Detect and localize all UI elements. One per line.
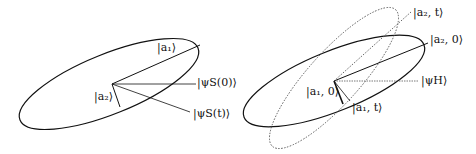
label-a1-t: |a₁, t⟩ bbox=[352, 102, 382, 114]
label-psi-s-0: |ψS(0)⟩ bbox=[197, 77, 237, 89]
label-a2-t: |a₂, t⟩ bbox=[413, 7, 443, 19]
diagram-svg bbox=[0, 0, 476, 154]
diagram: |a₁⟩ |a₂⟩ |ψS(0)⟩ |ψS(t)⟩ |a₂, t⟩ |a₂, 0… bbox=[0, 0, 476, 154]
right-diagram bbox=[233, 0, 435, 154]
label-psi-s-t: |ψS(t)⟩ bbox=[193, 108, 230, 120]
left-diagram bbox=[9, 20, 209, 148]
label-a1-0: |a₁, 0⟩ bbox=[306, 86, 339, 98]
label-a1: |a₁⟩ bbox=[157, 42, 176, 54]
label-psi-h: |ψH⟩ bbox=[421, 75, 447, 87]
label-a2-0: |a₂, 0⟩ bbox=[430, 34, 463, 46]
label-a2: |a₂⟩ bbox=[94, 91, 113, 103]
